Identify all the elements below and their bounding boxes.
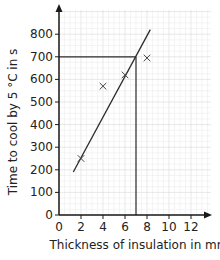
chart: 0246810120100200300400500600700800 Thick… [0, 0, 220, 260]
x-tick-label: 0 [55, 220, 63, 234]
y-tick-label: 700 [30, 50, 53, 64]
y-tick-label: 400 [30, 118, 53, 132]
y-tick-label: 800 [30, 27, 53, 41]
x-tick-label: 10 [161, 220, 176, 234]
x-tick-label: 12 [183, 220, 198, 234]
y-tick-label: 0 [45, 208, 53, 222]
x-tick-label: 6 [121, 220, 129, 234]
y-tick-label: 600 [30, 72, 53, 86]
y-axis-title: Time to cool by 5 °C in s [6, 49, 20, 197]
x-tick-label: 2 [77, 220, 85, 234]
x-axis-arrow-icon [204, 212, 212, 219]
x-axis-title: Thickness of insulation in mm [49, 238, 220, 252]
y-tick-label: 200 [30, 163, 53, 177]
axes [56, 4, 213, 219]
ticks: 0246810120100200300400500600700800 [30, 27, 199, 234]
x-tick-label: 4 [99, 220, 107, 234]
x-tick-label: 8 [143, 220, 151, 234]
y-tick-label: 100 [30, 185, 53, 199]
y-tick-label: 300 [30, 140, 53, 154]
grid [59, 10, 211, 215]
y-tick-label: 500 [30, 95, 53, 109]
y-axis-arrow-icon [56, 4, 63, 12]
